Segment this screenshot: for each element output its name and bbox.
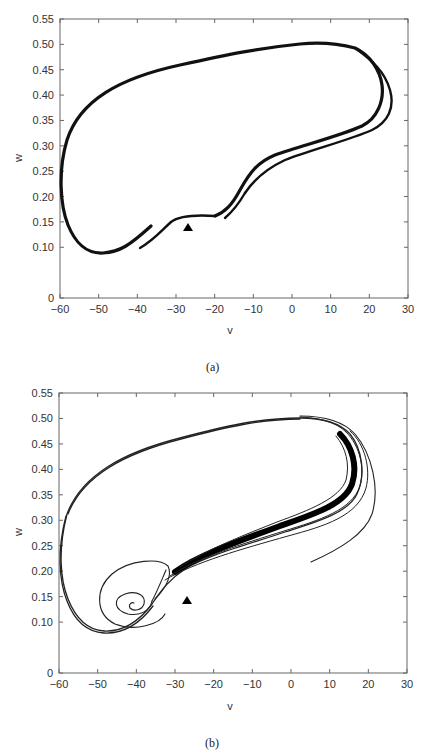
x-tick-label: −30: [166, 678, 185, 690]
y-tick-label: 0.55: [32, 387, 53, 399]
y-tick-label: 0.40: [32, 463, 53, 475]
y-tick-label: 0.50: [32, 412, 53, 424]
plot-frame: [60, 19, 408, 298]
x-tick-label: −20: [205, 303, 224, 315]
x-tick-label: −50: [89, 303, 108, 315]
y-tick-label: 0.20: [32, 565, 53, 577]
y-tick-label: 0.30: [32, 514, 53, 526]
y-tick-label: 0: [47, 667, 53, 679]
y-tick-label: 0.25: [32, 540, 53, 552]
x-tick-label: −60: [51, 303, 70, 315]
x-axis-label: v: [227, 700, 233, 712]
axis-ticks: −60−50−40−30−20−10010203000.100.150.200.…: [32, 387, 414, 690]
y-tick-label: 0.45: [32, 438, 53, 450]
caption-a: (a): [206, 360, 219, 375]
fixed-point-marker-icon: [183, 223, 193, 231]
y-axis-label: w: [12, 154, 24, 163]
chart-panel-b: −60−50−40−30−20−10010203000.100.150.200.…: [0, 374, 433, 756]
y-tick-label: 0.35: [32, 489, 53, 501]
y-tick-label: 0.45: [33, 64, 54, 76]
chart-a-svg: −60−50−40−30−20−10010203000.100.150.200.…: [0, 0, 433, 378]
y-tick-label: 0: [48, 292, 54, 304]
x-tick-label: 0: [289, 303, 295, 315]
x-tick-label: −30: [167, 303, 186, 315]
x-tick-label: 20: [363, 303, 375, 315]
x-tick-label: −60: [50, 678, 69, 690]
x-tick-label: −40: [127, 678, 146, 690]
fixed-point-marker-icon: [182, 596, 192, 604]
y-tick-label: 0.40: [33, 89, 54, 101]
x-tick-label: 10: [324, 678, 336, 690]
y-tick-label: 0.15: [32, 591, 53, 603]
chart-panel-a: −60−50−40−30−20−10010203000.100.150.200.…: [0, 0, 433, 378]
x-axis-label: v: [227, 324, 233, 336]
x-tick-label: −20: [204, 678, 223, 690]
y-tick-label: 0.20: [33, 191, 54, 203]
x-tick-label: 30: [402, 303, 414, 315]
y-tick-label: 0.15: [33, 216, 54, 228]
chart-b-svg: −60−50−40−30−20−10010203000.100.150.200.…: [0, 374, 433, 756]
axis-ticks: −60−50−40−30−20−10010203000.100.150.200.…: [33, 13, 415, 315]
trajectory-curve: [60, 416, 375, 633]
trajectory-curve: [61, 43, 392, 253]
y-axis-label: w: [12, 528, 24, 537]
y-tick-label: 0.10: [32, 616, 53, 628]
y-tick-label: 0.55: [33, 13, 54, 25]
x-tick-label: 30: [401, 678, 413, 690]
y-tick-label: 0.10: [33, 241, 54, 253]
y-tick-label: 0.30: [33, 140, 54, 152]
y-tick-label: 0.25: [33, 165, 54, 177]
x-tick-label: 20: [362, 678, 374, 690]
y-tick-label: 0.35: [33, 114, 54, 126]
x-tick-label: 0: [288, 678, 294, 690]
y-tick-label: 0.50: [33, 38, 54, 50]
x-tick-label: −40: [128, 303, 147, 315]
x-tick-label: −50: [88, 678, 107, 690]
x-tick-label: −10: [244, 303, 263, 315]
x-tick-label: −10: [243, 678, 262, 690]
x-tick-label: 10: [325, 303, 337, 315]
caption-b: (b): [205, 736, 219, 751]
